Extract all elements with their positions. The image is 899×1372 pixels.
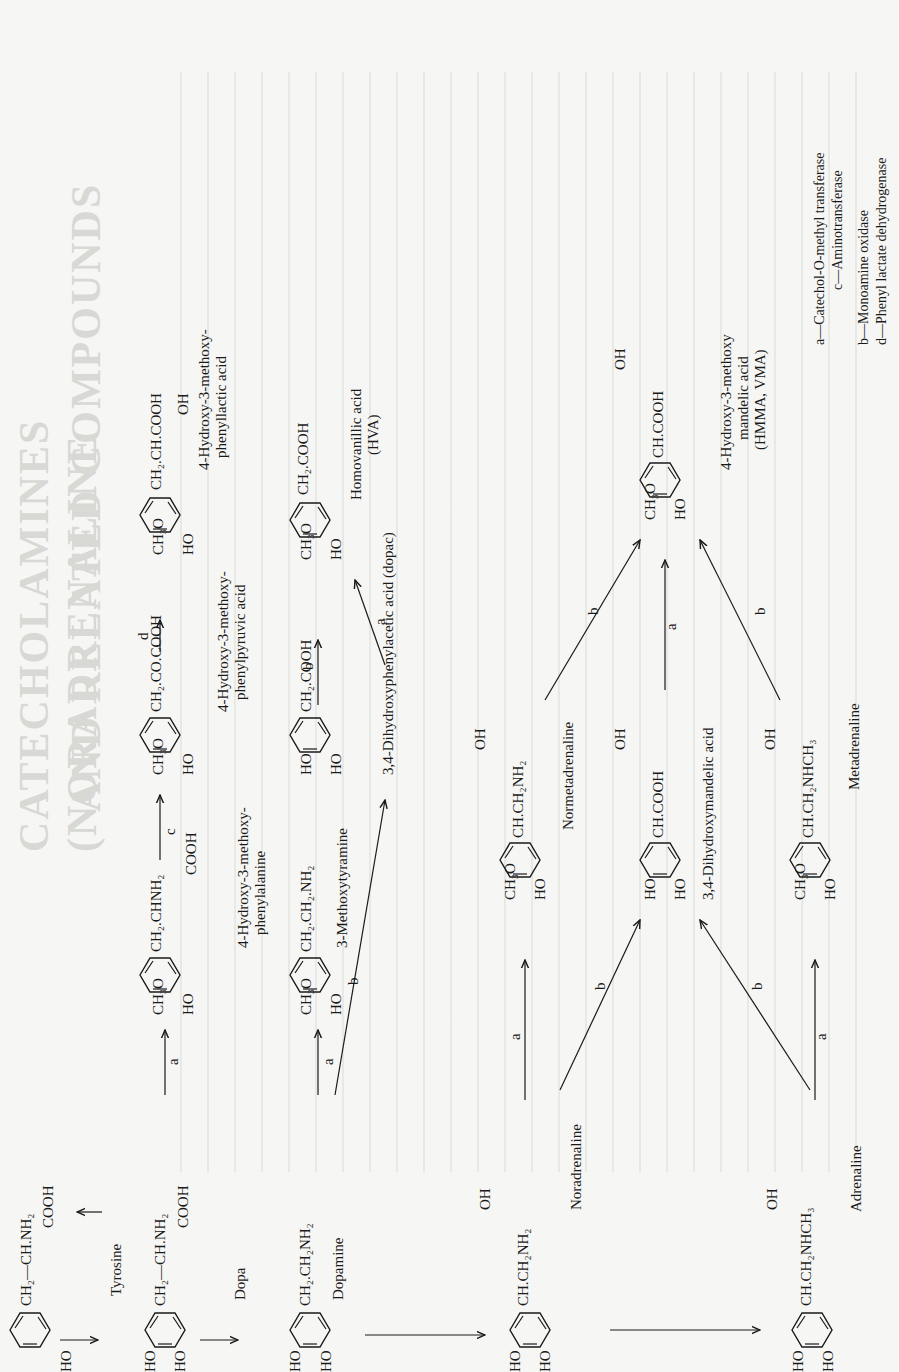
hva-name2: (HVA) <box>365 414 382 455</box>
metadr-ho: HO <box>822 878 839 900</box>
noradrenaline-subst: CH.CH₂NH₂ <box>515 1228 532 1306</box>
ring-dopamine <box>290 1313 330 1347</box>
hmphe-ho: HO <box>180 993 197 1015</box>
hmplac-subst: CH₂.CH.COOH <box>148 393 165 490</box>
hmppyr-name1: 4-Hydroxy-3-methoxy- <box>215 571 232 712</box>
flat-layout: a a b c d b a a b b a b a b CH₂—CH.NH₂ C… <box>0 0 899 1372</box>
legend-a: a—Catechol-O-methyl transferase <box>812 153 828 345</box>
tyrosine-cooh: COOH <box>40 1185 57 1228</box>
tyrosine-subst: CH₂—CH.NH₂ <box>18 1213 35 1306</box>
hmma-name1: 4-Hydroxy-3-methoxy <box>718 334 735 470</box>
normet-oh: OH <box>472 728 489 750</box>
dopac-ho2: HO <box>328 753 345 775</box>
svg-text:a: a <box>663 623 679 630</box>
noradrenaline-name: Noradrenaline <box>568 1124 585 1210</box>
legend-b: b—Monoamine oxidase <box>856 210 872 345</box>
hmplac-och3: CH₃O <box>150 518 167 555</box>
hmphe-subst: CH₂.CHNH₂ <box>148 874 165 952</box>
svg-text:b: b <box>585 608 601 616</box>
normet-name: Normetadrenaline <box>560 722 577 830</box>
mtyr-name: 3-Methoxytyramine <box>334 828 351 948</box>
noradrenaline-ho1: HO <box>507 1350 524 1372</box>
hva-och3: CH₃O <box>298 523 315 560</box>
dhma-name: 3,4-Dihydroxymandelic acid <box>700 728 717 900</box>
svg-text:a: a <box>320 1058 336 1065</box>
dhma-ho1: HO <box>642 878 659 900</box>
normet-subst: CH.CH₂NH₂ <box>510 760 527 838</box>
hmppyr-subst: CH₂.CO.COOH <box>148 615 165 712</box>
hmma-ho: HO <box>672 498 689 520</box>
svg-text:b: b <box>345 978 361 986</box>
svg-text:b: b <box>749 983 765 991</box>
dhma-ho2: HO <box>672 878 689 900</box>
metadr-subst: CH.CH₂NHCH₃ <box>800 740 817 838</box>
hmplac-name2: phenyllactic acid <box>213 356 230 458</box>
adrenaline-ho2: HO <box>820 1350 837 1372</box>
hmphe-och3: CH₃O <box>150 978 167 1015</box>
mtyr-ho: HO <box>328 993 345 1015</box>
adrenaline-subst: CH.CH₂NHCH₃ <box>798 1208 815 1306</box>
metadr-name: Metadrenaline <box>846 703 863 790</box>
dopamine-ho2: HO <box>318 1350 335 1372</box>
dopa-ho1: HO <box>142 1350 159 1372</box>
dopac-name: 3,4-Dihydroxyphenylacetic acid (dopac) <box>380 532 397 775</box>
hmplac-name1: 4-Hydroxy-3-methoxy- <box>196 329 213 470</box>
hmphe-name2: phenylalanine <box>252 851 269 935</box>
svg-text:a: a <box>507 1033 523 1040</box>
tyrosine-name: Tyrosine <box>108 1244 125 1296</box>
dopamine-ho1: HO <box>287 1350 304 1372</box>
svg-text:b: b <box>592 983 608 991</box>
dopa-subst: CH₂—CH.NH₂ <box>152 1213 169 1306</box>
adrenaline-oh: OH <box>764 1188 781 1210</box>
dopac-ho1: HO <box>298 753 315 775</box>
mtyr-och3: CH₃O <box>298 978 315 1015</box>
noradrenaline-oh: OH <box>477 1188 494 1210</box>
hmma-oh: OH <box>612 348 629 370</box>
dopamine-subst: CH₂.CH₂NH₂ <box>297 1223 314 1306</box>
dopamine-name: Dopamine <box>330 1238 347 1300</box>
hmma-name2: mandelic acid <box>735 356 752 440</box>
tyrosine-ho: HO <box>58 1350 75 1372</box>
dhma-oh: OH <box>612 728 629 750</box>
hmma-och3: CH₃O <box>642 483 659 520</box>
ring-tyrosine <box>10 1313 50 1347</box>
arrows-layer: a a b c d b a a b b a b a b <box>0 0 899 1372</box>
hmma-name3: (HMMA, VMA) <box>752 349 769 450</box>
metadr-och3: CH₃O <box>792 863 809 900</box>
hmma-subst: CH.COOH <box>650 391 667 458</box>
svg-text:a: a <box>165 1058 181 1065</box>
svg-text:c: c <box>162 828 178 835</box>
normet-och3: CH₃O <box>502 863 519 900</box>
metadr-oh: OH <box>762 728 779 750</box>
adrenaline-ho1: HO <box>790 1350 807 1372</box>
hmppyr-ho: HO <box>180 753 197 775</box>
dhma-subst: CH.COOH <box>650 771 667 838</box>
ring-adrenaline <box>792 1313 832 1347</box>
dopac-subst: CH₂.COOH <box>298 640 315 712</box>
mtyr-subst: CH₂.CH₂.NH₂ <box>298 865 315 952</box>
ring-dopa <box>145 1313 185 1347</box>
dopa-ho2: HO <box>172 1350 189 1372</box>
dopa-name: Dopa <box>232 1268 249 1301</box>
ring-dopac <box>290 718 330 752</box>
hmphe-cooh: COOH <box>183 832 200 875</box>
hmppyr-och3: CH₃O <box>150 738 167 775</box>
ring-dhma <box>640 843 680 877</box>
hmplac-ho: HO <box>180 533 197 555</box>
svg-text:b: b <box>752 608 768 616</box>
noradrenaline-ho2: HO <box>537 1350 554 1372</box>
normet-ho: HO <box>532 878 549 900</box>
adrenaline-name: Adrenaline <box>848 1145 865 1212</box>
hmplac-oh: OH <box>175 393 192 415</box>
hva-subst: CH₂.COOH <box>295 423 312 495</box>
svg-text:a: a <box>813 1033 829 1040</box>
legend-d: d—Phenyl lactate dehydrogenase <box>874 158 890 345</box>
ring-noradrenaline <box>510 1313 550 1347</box>
hmphe-name1: 4-Hydroxy-3-methoxy- <box>235 807 252 948</box>
hmppyr-name2: phenylpyruvic acid <box>232 585 249 700</box>
legend-c: c—Aminotransferase <box>830 170 846 290</box>
dopa-cooh: COOH <box>175 1185 192 1228</box>
hva-ho: HO <box>328 538 345 560</box>
hva-name1: Homovanillic acid <box>348 389 365 500</box>
